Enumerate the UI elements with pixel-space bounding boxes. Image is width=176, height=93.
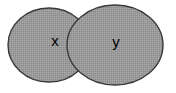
venn-diagram-canvas: x y (0, 0, 176, 93)
venn-diagram: x y (0, 0, 176, 93)
set-label-y: y (112, 33, 120, 50)
set-label-x: x (51, 32, 59, 49)
